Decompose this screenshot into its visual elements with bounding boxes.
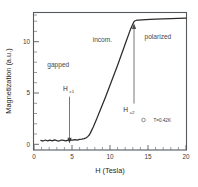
- hc2-label: H: [123, 106, 128, 113]
- chart-svg: 0 5 10 15 20 H (Tesla) 0: [0, 0, 198, 187]
- y-tick-label: 5: [26, 89, 30, 96]
- temperature-note: T=0.42K: [142, 118, 172, 123]
- hc1-subscript: c1: [70, 89, 75, 94]
- region-label-gapped: gapped: [47, 61, 69, 69]
- y-tick-label: 10: [23, 38, 31, 45]
- y-axis-tick-labels: 0 5 10: [23, 38, 31, 148]
- x-axis-tick-labels: 0 5 10 15 20: [32, 153, 190, 160]
- x-tick-label: 15: [144, 153, 152, 160]
- temperature-label: T=0.42K: [154, 118, 172, 123]
- y-axis-ticks: [34, 15, 39, 144]
- x-axis-title: H (Tesla): [95, 166, 125, 175]
- hc1-label: H: [63, 85, 68, 92]
- region-label-incom: incom.: [93, 36, 113, 43]
- critical-field-hc1-annotation: H c1: [63, 85, 75, 144]
- y-axis-title: Magnetization (a.u.): [4, 48, 13, 113]
- critical-field-hc2-annotation: H c2: [123, 23, 136, 115]
- open-circle-icon: [142, 118, 146, 122]
- x-tick-label: 0: [32, 153, 36, 160]
- magnetization-field-chart: 0 5 10 15 20 H (Tesla) 0: [0, 0, 198, 187]
- y-tick-label: 0: [26, 141, 30, 148]
- x-tick-label: 20: [182, 153, 190, 160]
- x-tick-label: 5: [70, 153, 74, 160]
- hc2-subscript: c2: [130, 110, 135, 115]
- x-axis-ticks: [34, 145, 186, 150]
- x-tick-label: 10: [106, 153, 114, 160]
- region-label-polarized: polarized: [145, 33, 172, 41]
